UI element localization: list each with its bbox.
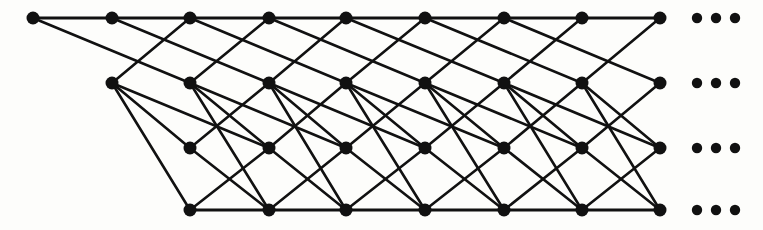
graph-node[interactable] [419,204,432,217]
graph-edge [269,83,425,148]
graph-edge [582,83,660,210]
graph-edge [112,83,269,148]
graph-canvas [0,0,763,230]
ellipsis-dot [692,13,702,23]
graph-edge [504,18,660,83]
graph-edge [190,83,346,148]
graph-node[interactable] [654,204,667,217]
graph-node[interactable] [184,77,197,90]
graph-edge [190,18,346,83]
ellipsis-marker [692,13,740,23]
graph-node[interactable] [576,77,589,90]
ellipsis-dot [711,78,721,88]
ellipsis-dot [692,143,702,153]
graph-node[interactable] [498,12,511,25]
graph-node[interactable] [27,12,40,25]
graph-edge [425,83,582,148]
graph-node[interactable] [498,204,511,217]
graph-edge [582,18,660,83]
graph-node[interactable] [654,77,667,90]
ellipsis-dot [692,205,702,215]
graph-edge [346,83,425,210]
ellipsis-marker [692,78,740,88]
ellipsis-dot [711,205,721,215]
graph-node[interactable] [263,142,276,155]
graph-edge [190,18,269,83]
graph-edge [112,83,190,148]
graph-node[interactable] [576,12,589,25]
graph-node[interactable] [498,142,511,155]
graph-node[interactable] [576,204,589,217]
graph-node[interactable] [498,77,511,90]
graph-node[interactable] [576,142,589,155]
graph-edge [504,18,582,83]
graph-node[interactable] [340,142,353,155]
graph-node[interactable] [419,12,432,25]
graph-edge [269,18,346,83]
graph-node[interactable] [340,204,353,217]
ellipsis-dot [692,78,702,88]
graph-edge [504,83,582,210]
graph-edge [190,83,269,210]
figure-root: Infinite layered lattice graph [0,0,763,230]
ellipses-layer [692,13,740,215]
graph-node[interactable] [654,12,667,25]
graph-edge [269,83,346,210]
graph-node[interactable] [419,77,432,90]
graph-edge [346,83,504,148]
graph-edge [269,18,425,83]
graph-node[interactable] [263,204,276,217]
graph-node[interactable] [340,12,353,25]
ellipsis-dot [730,78,740,88]
edges-layer [33,18,660,210]
graph-node[interactable] [184,142,197,155]
graph-node[interactable] [654,142,667,155]
graph-edge [112,83,190,210]
graph-node[interactable] [419,142,432,155]
graph-node[interactable] [263,77,276,90]
graph-edge [112,18,190,83]
graph-edge [346,18,504,83]
graph-node[interactable] [106,12,119,25]
ellipsis-dot [730,143,740,153]
ellipsis-marker [692,205,740,215]
ellipsis-marker [692,143,740,153]
ellipsis-dot [711,143,721,153]
ellipsis-dot [711,13,721,23]
graph-node[interactable] [184,204,197,217]
graph-edge [346,18,425,83]
graph-node[interactable] [340,77,353,90]
graph-edge [504,83,660,148]
graph-edge [112,18,269,83]
ellipsis-dot [730,13,740,23]
graph-node[interactable] [263,12,276,25]
graph-edge [33,18,190,83]
graph-node[interactable] [184,12,197,25]
graph-edge [425,83,504,210]
ellipsis-dot [730,205,740,215]
graph-node[interactable] [106,77,119,90]
graph-edge [425,18,582,83]
graph-edge [425,18,504,83]
